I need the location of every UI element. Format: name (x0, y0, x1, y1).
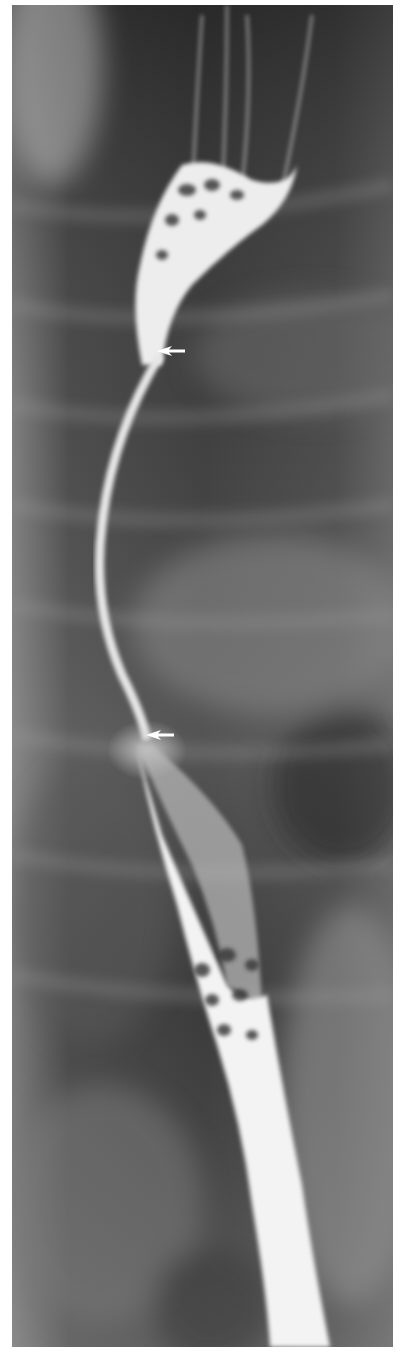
xray-svg (12, 5, 393, 1347)
radiograph-image (12, 5, 393, 1347)
